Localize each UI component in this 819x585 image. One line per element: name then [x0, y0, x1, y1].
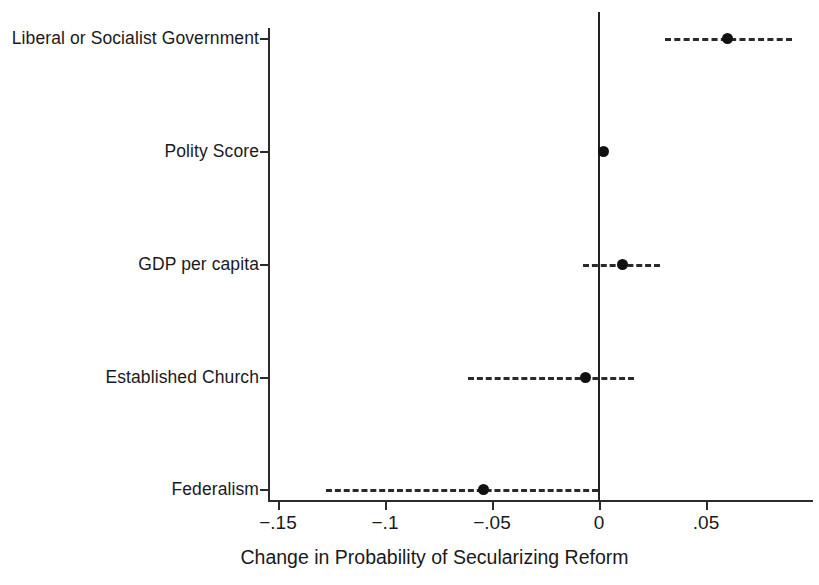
x-tick-0	[599, 501, 601, 510]
point-marker-polity-score	[598, 146, 609, 157]
y-tick-3	[260, 377, 269, 379]
coefficient-plot: Liberal or Socialist Government Polity S…	[0, 0, 819, 585]
x-tick-neg-015	[278, 501, 280, 510]
y-axis-label-federalism: Federalism	[171, 479, 259, 499]
y-axis-label-established-church: Established Church	[105, 367, 259, 387]
point-marker-federalism	[478, 484, 489, 495]
y-axis-label-polity-score: Polity Score	[164, 141, 259, 161]
y-axis-label-liberal-or-socialist-government: Liberal or Socialist Government	[12, 28, 259, 48]
zero-reference-line	[598, 12, 600, 501]
ci-whisker-federalism	[326, 489, 598, 492]
y-tick-4	[260, 489, 269, 491]
x-tick-label-0: 0	[559, 512, 639, 534]
y-tick-2	[260, 264, 269, 266]
x-tick-label-neg-015: −.15	[238, 512, 318, 534]
point-marker-liberal-or-socialist-government	[722, 33, 733, 44]
point-marker-gdp-per-capita	[617, 259, 628, 270]
x-tick-label-neg-01: −.1	[345, 512, 425, 534]
x-axis-title: Change in Probability of Secularizing Re…	[0, 545, 819, 569]
y-tick-0	[260, 38, 269, 40]
x-tick-neg-005	[492, 501, 494, 510]
x-axis-line	[268, 500, 813, 502]
x-tick-005	[706, 501, 708, 510]
x-tick-label-neg-005: −.05	[452, 512, 532, 534]
point-marker-established-church	[580, 372, 591, 383]
ci-whisker-established-church	[468, 377, 634, 380]
x-tick-label-005: .05	[666, 512, 746, 534]
y-tick-1	[260, 151, 269, 153]
x-tick-neg-01	[385, 501, 387, 510]
y-axis-label-gdp-per-capita: GDP per capita	[138, 254, 259, 274]
